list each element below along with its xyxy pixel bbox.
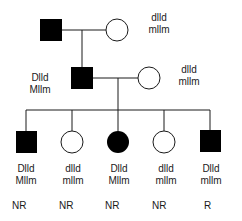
gen3-child4-status: NR xyxy=(152,200,176,212)
gen2-spouse-genotype: dlld mllm xyxy=(170,64,208,88)
gen3-child4-unaffected-female-symbol xyxy=(153,131,175,153)
gen2-son-genotype: Dlld Mllm xyxy=(22,72,58,96)
gen2-son-affected-male-symbol xyxy=(71,67,93,89)
gen3-child2-status: NR xyxy=(59,200,83,212)
gen3-child2-genotype: dlld mllm xyxy=(55,163,91,187)
gen1-father-affected-male-symbol xyxy=(40,19,62,41)
gen3-child3-genotype: Dlld Mllm xyxy=(101,163,137,187)
gen3-child4-genotype: dlld mllm xyxy=(148,163,184,187)
gen2-spouse-unaffected-female-symbol xyxy=(138,67,160,89)
gen3-child2-unaffected-female-symbol xyxy=(61,131,83,153)
gen3-child1-affected-male-symbol xyxy=(16,131,37,153)
gen3-child5-affected-male-symbol xyxy=(200,130,221,152)
gen1-mother-unaffected-female-symbol xyxy=(106,19,128,41)
gen3-child1-genotype: Dlld Mllm xyxy=(8,163,44,187)
gen3-child5-genotype: Dlld mllm xyxy=(193,163,229,187)
gen1-mother-genotype: dlld mllm xyxy=(140,12,178,36)
gen3-child3-status: NR xyxy=(105,200,129,212)
gen3-child5-status: R xyxy=(204,200,228,212)
pedigree-chart xyxy=(0,0,242,221)
gen3-child3-affected-female-symbol xyxy=(107,131,129,153)
gen3-child1-status: NR xyxy=(12,200,36,212)
